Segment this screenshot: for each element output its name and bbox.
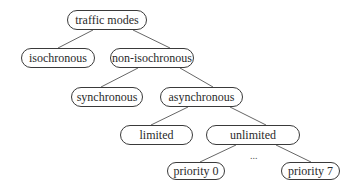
node-priority-7: priority 7	[281, 162, 340, 180]
node-unlimited: unlimited	[206, 125, 300, 145]
ellipsis-more-priorities: ...	[250, 150, 258, 161]
node-priority-0: priority 0	[167, 162, 225, 180]
edge-root-iso	[58, 30, 93, 48]
node-limited: limited	[120, 125, 193, 145]
edge-async-limited	[151, 107, 188, 125]
node-traffic-modes: traffic modes	[67, 10, 147, 30]
edge-root-noniso	[133, 30, 170, 48]
node-isochronous: isochronous	[21, 48, 95, 68]
node-synchronous: synchronous	[71, 87, 143, 107]
edge-unlimited-p0	[200, 145, 236, 162]
edge-noniso-async	[180, 68, 213, 87]
edge-noniso-sync	[101, 68, 138, 87]
node-non-isochronous: non-isochronous	[110, 48, 194, 68]
node-asynchronous: asynchronous	[160, 87, 243, 107]
edge-unlimited-p7	[276, 145, 311, 162]
edge-async-unlimited	[230, 107, 266, 125]
